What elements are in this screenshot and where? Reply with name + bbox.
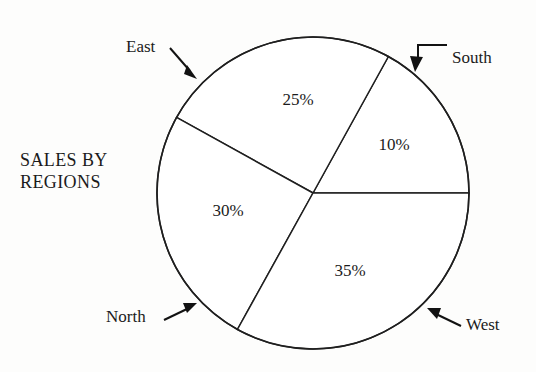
callout-west[interactable]: West xyxy=(427,308,500,334)
slice-label-east: 25% xyxy=(282,90,313,109)
pie-slices xyxy=(157,37,469,349)
pie-chart-canvas: 10% 25% 30% 35% SALES BY REGIONS East So… xyxy=(0,0,536,372)
callout-arrowhead-north xyxy=(183,303,197,313)
slice-label-south: 10% xyxy=(378,135,409,154)
chart-title: SALES BY REGIONS xyxy=(20,150,108,192)
pie-chart-figure: 10% 25% 30% 35% SALES BY REGIONS East So… xyxy=(0,0,536,372)
callout-label-west: West xyxy=(466,315,500,334)
callout-arrowhead-west xyxy=(427,308,441,319)
chart-title-line-1: SALES BY xyxy=(20,150,108,170)
callout-east[interactable]: East xyxy=(126,37,197,79)
callout-leader-north xyxy=(164,308,189,320)
chart-title-line-2: REGIONS xyxy=(20,172,101,192)
callout-leader-west xyxy=(436,314,461,326)
slice-label-west: 35% xyxy=(334,261,365,280)
callout-label-south: South xyxy=(452,48,492,67)
callout-label-north: North xyxy=(106,307,146,326)
callout-arrowhead-south xyxy=(410,56,423,72)
callout-north[interactable]: North xyxy=(106,303,197,326)
slice-label-north: 30% xyxy=(212,201,243,220)
callout-label-east: East xyxy=(126,37,156,56)
callout-south[interactable]: South xyxy=(410,45,492,72)
callout-leader-south xyxy=(418,45,447,62)
